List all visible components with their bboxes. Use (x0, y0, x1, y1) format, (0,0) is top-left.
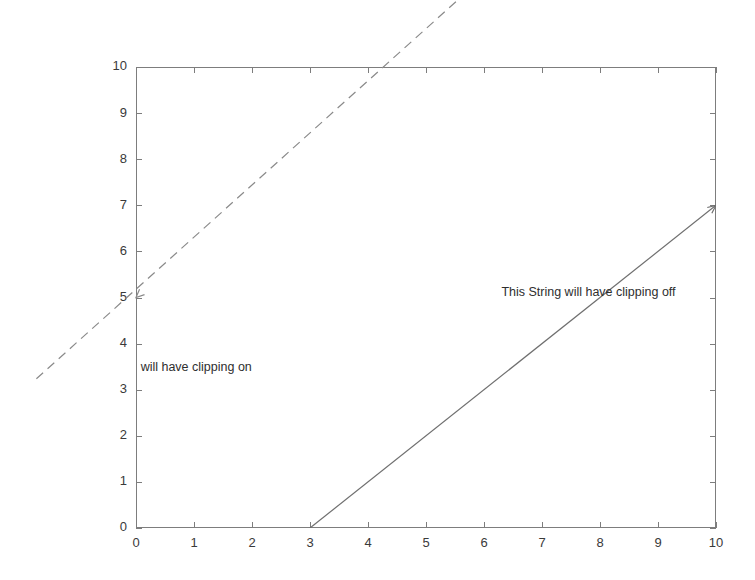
series-unclipped-group (35, 0, 479, 380)
y-tick-label-7: 7 (120, 197, 127, 212)
x-tick-label-3: 3 (306, 535, 313, 550)
x-tick-label-5: 5 (422, 535, 429, 550)
series-line-clipping-on-arrow (310, 205, 716, 528)
y-tick-label-2: 2 (120, 427, 127, 442)
y-tick-label-3: 3 (120, 381, 127, 396)
series-clipped-group (310, 205, 716, 528)
y-tick-label-0: 0 (120, 519, 127, 534)
series-line-clipping-off-arrow (35, 0, 479, 380)
x-tick-label-6: 6 (480, 535, 487, 550)
x-tick-label-1: 1 (190, 535, 197, 550)
arrowhead-clipping-off-arrow (136, 289, 145, 297)
x-tick-label-10: 10 (709, 535, 723, 550)
chart-plot: 012345678910 012345678910 will have clip… (0, 0, 755, 580)
x-tick-label-0: 0 (132, 535, 139, 550)
annotations-group: will have clipping onThis String will ha… (140, 285, 676, 374)
x-tick-label-8: 8 (596, 535, 603, 550)
x-tick-label-7: 7 (538, 535, 545, 550)
x-tick-label-9: 9 (654, 535, 661, 550)
clipping-on-label: will have clipping on (140, 360, 252, 374)
figure-canvas: 012345678910 012345678910 will have clip… (0, 0, 755, 580)
y-tick-label-6: 6 (120, 243, 127, 258)
y-tick-label-4: 4 (120, 335, 127, 350)
x-axis-tick-labels: 012345678910 (132, 535, 723, 550)
y-tick-label-10: 10 (113, 58, 127, 73)
x-tick-label-4: 4 (364, 535, 371, 550)
y-tick-label-1: 1 (120, 473, 127, 488)
clipping-off-label: This String will have clipping off (501, 285, 676, 299)
y-tick-label-8: 8 (120, 151, 127, 166)
x-tick-label-2: 2 (248, 535, 255, 550)
y-axis-tick-labels: 012345678910 (113, 58, 127, 534)
y-tick-label-5: 5 (120, 289, 127, 304)
y-tick-label-9: 9 (120, 105, 127, 120)
